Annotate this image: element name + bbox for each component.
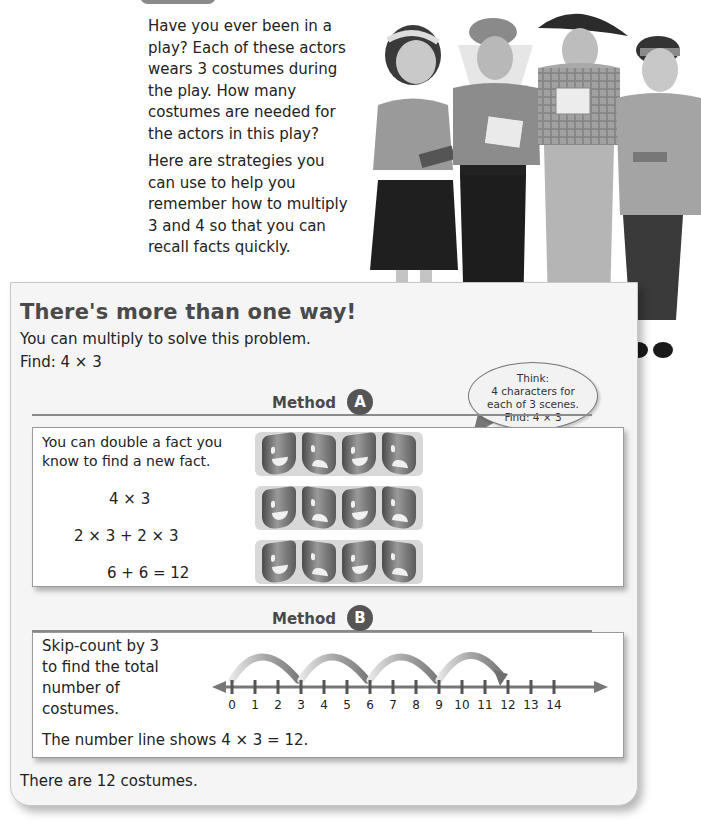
tick-mark bbox=[415, 680, 418, 694]
tick-mark bbox=[369, 680, 372, 694]
method-b-label: Method bbox=[272, 610, 336, 628]
tick-mark bbox=[438, 680, 441, 694]
bubble-line-3: each of 3 scenes. bbox=[469, 398, 597, 411]
tick-label: 0 bbox=[228, 698, 236, 712]
tick-label: 8 bbox=[412, 698, 420, 712]
left-arrow-icon bbox=[212, 681, 226, 693]
method-a-eq-3: 6 + 6 = 12 bbox=[107, 564, 189, 582]
happy-mask-icon bbox=[342, 540, 376, 585]
sad-mask-icon bbox=[302, 486, 336, 531]
arrow-head-icon bbox=[494, 670, 508, 686]
tick-mark bbox=[507, 680, 510, 694]
panel-title: There's more than one way! bbox=[20, 300, 356, 324]
mask-row-3 bbox=[255, 540, 423, 584]
method-b-badge: B bbox=[347, 605, 373, 631]
tick-label: 5 bbox=[343, 698, 351, 712]
jump-arc-3-6 bbox=[301, 657, 367, 680]
think-bubble: Think: 4 characters for each of 3 scenes… bbox=[468, 362, 598, 430]
tick-label: 12 bbox=[500, 698, 515, 712]
tick-label: 3 bbox=[297, 698, 305, 712]
tick-label: 7 bbox=[389, 698, 397, 712]
method-b-text-line-3: number of bbox=[42, 678, 159, 699]
actor-3 bbox=[538, 14, 628, 324]
happy-mask-icon bbox=[262, 540, 296, 585]
tick-mark bbox=[277, 680, 280, 694]
intro-text: Have you ever been in a play? Each of th… bbox=[148, 16, 348, 259]
tick-mark bbox=[461, 680, 464, 694]
sad-mask-icon bbox=[382, 540, 416, 585]
panel-find: Find: 4 × 3 bbox=[20, 353, 102, 371]
bubble-line-2: 4 characters for bbox=[469, 385, 597, 398]
theater-masks-grid bbox=[255, 432, 423, 594]
tick-label: 4 bbox=[320, 698, 328, 712]
method-a-text-line-1: You can double a fact you bbox=[42, 433, 222, 452]
happy-mask-icon bbox=[342, 432, 376, 477]
conclusion-text: There are 12 costumes. bbox=[20, 772, 198, 790]
sad-mask-icon bbox=[382, 486, 416, 531]
sad-mask-icon bbox=[382, 432, 416, 477]
happy-mask-icon bbox=[262, 432, 296, 477]
method-a-text: You can double a fact you know to find a… bbox=[42, 433, 222, 471]
tick-mark bbox=[392, 680, 395, 694]
method-b-text-line-1: Skip-count by 3 bbox=[42, 636, 159, 657]
sad-mask-icon bbox=[302, 540, 336, 585]
tick-label: 1 bbox=[251, 698, 259, 712]
method-b-text: Skip-count by 3 to find the total number… bbox=[42, 636, 159, 720]
method-b-text-line-4: costumes. bbox=[42, 699, 159, 720]
page-tab-decoration bbox=[140, 0, 216, 4]
panel-subtitle: You can multiply to solve this problem. bbox=[20, 330, 311, 348]
jump-arc-0-3 bbox=[232, 657, 298, 680]
tick-mark bbox=[254, 680, 257, 694]
intro-paragraph-2: Here are strategies you can use to help … bbox=[148, 151, 348, 259]
intro-paragraph-1: Have you ever been in a play? Each of th… bbox=[148, 16, 348, 145]
tick-label: 14 bbox=[546, 698, 561, 712]
number-line: 01234567891011121314 bbox=[210, 640, 610, 712]
tick-mark bbox=[530, 680, 533, 694]
sad-mask-icon bbox=[302, 432, 336, 477]
tick-mark bbox=[553, 680, 556, 694]
tick-mark bbox=[484, 680, 487, 694]
tick-label: 6 bbox=[366, 698, 374, 712]
method-a-eq-1: 4 × 3 bbox=[109, 490, 150, 508]
tick-label: 11 bbox=[477, 698, 492, 712]
jump-arc-9-12 bbox=[439, 655, 500, 680]
bubble-line-1: Think: bbox=[469, 372, 597, 385]
tick-mark bbox=[346, 680, 349, 694]
method-a-rule bbox=[32, 414, 592, 416]
jump-arc-6-9 bbox=[370, 657, 436, 680]
method-a-text-line-2: know to find a new fact. bbox=[42, 452, 222, 471]
right-arrow-icon bbox=[594, 681, 608, 693]
happy-mask-icon bbox=[342, 486, 376, 531]
tick-label: 2 bbox=[274, 698, 282, 712]
method-b-caption: The number line shows 4 × 3 = 12. bbox=[42, 731, 308, 749]
mask-row-2 bbox=[255, 486, 423, 530]
tick-mark bbox=[300, 680, 303, 694]
method-a-eq-2: 2 × 3 + 2 × 3 bbox=[74, 527, 179, 545]
method-a-label: Method bbox=[272, 394, 336, 412]
method-a-badge: A bbox=[347, 389, 373, 415]
happy-mask-icon bbox=[262, 486, 296, 531]
tick-label: 13 bbox=[523, 698, 538, 712]
tick-label: 9 bbox=[435, 698, 443, 712]
tick-label: 10 bbox=[454, 698, 469, 712]
tick-mark bbox=[323, 680, 326, 694]
bubble-line-4: Find: 4 × 3 bbox=[469, 411, 597, 424]
mask-row-1 bbox=[255, 432, 423, 476]
tick-mark bbox=[231, 680, 234, 694]
method-b-text-line-2: to find the total bbox=[42, 657, 159, 678]
